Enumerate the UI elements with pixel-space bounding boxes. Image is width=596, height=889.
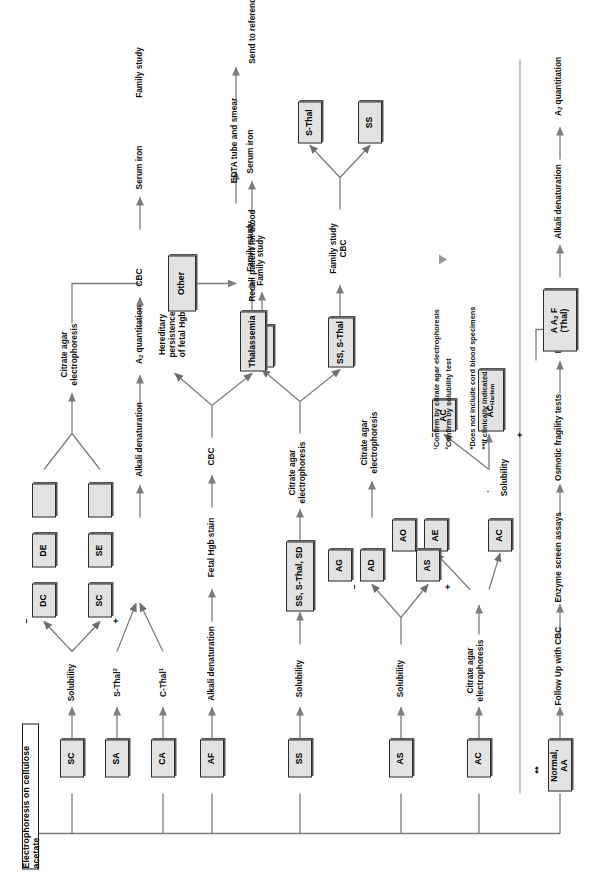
node-other[interactable]: Other <box>168 255 196 311</box>
node-blank-neg[interactable] <box>32 483 56 517</box>
sa-label-s-thal: S-Thal2 <box>112 657 122 707</box>
node-thal-sublabel: (Thal) <box>560 308 570 332</box>
node-thalassemia[interactable]: Thalassemia <box>240 311 266 371</box>
node-sc[interactable]: SC <box>60 739 84 777</box>
ss-solubility-label: Solubility <box>295 651 305 705</box>
as-pos-sign: + <box>444 584 453 589</box>
flowchart-canvas: Electrophoresis on cellulose acetate ** … <box>0 0 596 889</box>
af-step-fetal-hgb: Fetal Hgb stain <box>207 507 217 587</box>
thal-step-alkali: Alkali denaturation <box>554 159 564 243</box>
node-ac-result[interactable]: AC <box>488 519 512 551</box>
as-step-citrate: Citrate agar electrophoresis <box>360 405 380 479</box>
node-ss-sthal[interactable]: SS, S-Thal <box>328 317 354 367</box>
node-ss-final[interactable]: SS <box>358 101 382 143</box>
page-title: Electrophoresis on cellulose acetate <box>22 723 39 869</box>
thalassemia-next-serum-iron: Serum iron <box>246 123 256 179</box>
node-a-a2-f-thal[interactable]: A A2 F (Thal) <box>543 289 577 351</box>
diagram-page: Electrophoresis on cellulose acetate ** … <box>0 0 596 889</box>
sc-pos-sign: + <box>112 618 121 623</box>
node-de[interactable]: DE <box>32 533 56 567</box>
af-step-cbc: CBC <box>207 439 217 473</box>
step-osmotic-fragility: Osmotic fragility tests <box>554 392 564 482</box>
casa-step-alkali: Alkali denaturation <box>135 395 145 483</box>
af-step-alkali: Alkali denaturation <box>207 619 217 707</box>
node-blank-pos[interactable] <box>88 483 112 517</box>
casa-step-a2-quant: A2 quantitation <box>135 295 145 373</box>
as-solubility-label: Solubility <box>396 651 406 705</box>
ca-label-c-thal: C-Thal1 <box>158 657 168 707</box>
node-se[interactable]: SE <box>88 533 112 567</box>
node-as-pos[interactable]: AS <box>416 549 440 581</box>
node-ae[interactable]: AE <box>424 519 448 551</box>
other-step-reference-lab: Send to reference lab <box>248 0 258 69</box>
step-enzyme-screen: Enzyme screen assays <box>554 516 564 602</box>
node-sc-pos[interactable]: SC <box>88 583 112 617</box>
node-s-thal-final[interactable]: S-Thal <box>298 101 322 143</box>
thal-step-a2-quant: A2 quantitation <box>554 47 564 125</box>
node-af[interactable]: AF <box>200 739 224 777</box>
sc-step-citrate: Citrate agar electrophoresis <box>60 317 80 391</box>
sc-solubility-label: Solubility <box>67 655 77 709</box>
casa-step-serum-iron: Serum iron <box>135 139 145 195</box>
footnote-4: **If clinically indicated <box>480 371 491 449</box>
ac-solubility-label: Solubility <box>500 451 510 503</box>
page-marker-triangle <box>439 254 447 264</box>
ac-step-citrate: Citrate agar electrophoresis <box>466 633 486 707</box>
footnote-3: *Does not include cord blood specimens <box>468 306 479 449</box>
sc-neg-sign: – <box>22 618 31 623</box>
node-ag[interactable]: AG <box>328 549 352 581</box>
node-as[interactable]: AS <box>389 739 413 777</box>
node-ca[interactable]: CA <box>151 739 175 777</box>
ss-step-citrate: Citrate agar electrophoresis <box>288 435 308 509</box>
node-ss-sthal-sd[interactable]: SS, S-Thal, SD <box>286 541 314 611</box>
node-ad[interactable]: AD <box>360 549 384 581</box>
ssthal-next-family-cbc: Family study CBC <box>329 213 349 283</box>
casa-step-cbc: CBC <box>135 259 145 295</box>
node-sa[interactable]: SA <box>105 739 129 777</box>
other-step-recall: Recall patient for blood <box>248 197 258 313</box>
casa-step-family-study: Family study <box>135 41 145 103</box>
normal-asterisk: ** <box>534 766 543 773</box>
node-ss[interactable]: SS <box>288 739 312 777</box>
node-dc[interactable]: DC <box>32 583 56 617</box>
footnote-2: ²Confirm by solubility test <box>444 358 455 449</box>
ac-solubility-pos-sign: + <box>516 432 525 437</box>
step-follow-up-cbc: Follow Up with CBC <box>554 635 564 705</box>
node-ac[interactable]: AC <box>467 739 491 777</box>
as-neg-sign: – <box>350 584 359 589</box>
node-normal-aa[interactable]: Normal, AA <box>548 739 572 791</box>
footnote-1: ¹Confirm by citrate agar electrophoresis <box>432 309 443 449</box>
node-ao[interactable]: AO <box>392 519 416 551</box>
other-step-edta: EDTA tube and smear <box>230 91 240 189</box>
